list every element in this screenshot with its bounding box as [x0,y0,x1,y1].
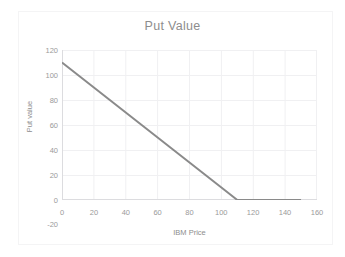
y-tick-label: 0 [32,197,58,205]
y-tick-label: 100 [32,72,58,80]
x-tick-label: 140 [270,209,300,217]
x-axis-tick-labels: 0 20 40 60 80 100 120 140 160 [0,209,345,221]
y-tick-label: 20 [32,172,58,180]
y-axis-lower-bound-label: -20 [32,220,58,229]
y-tick-label: 120 [32,47,58,55]
x-tick-label: 100 [206,209,236,217]
plot-area [62,50,317,200]
y-tick-label: 80 [32,97,58,105]
x-tick-label: 160 [302,209,332,217]
x-tick-label: 60 [143,209,173,217]
plot-svg [62,50,317,200]
y-tick-label: 40 [32,147,58,155]
y-axis-title: Put value [25,82,34,152]
x-axis-title: IBM Price [62,228,317,237]
x-tick-label: 120 [238,209,268,217]
put-value-chart-figure: Put Value 120 100 80 60 40 20 0 -20 Put … [0,0,345,257]
x-tick-label: 20 [79,209,109,217]
y-tick-label: 60 [32,122,58,130]
x-tick-label: 40 [111,209,141,217]
x-tick-label: 80 [175,209,205,217]
x-tick-label: 0 [47,209,77,217]
